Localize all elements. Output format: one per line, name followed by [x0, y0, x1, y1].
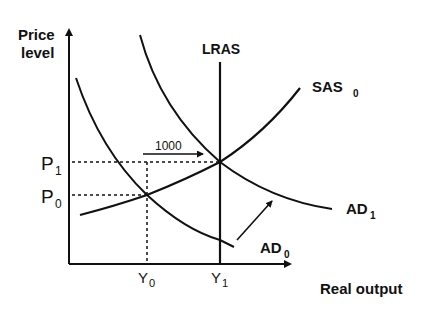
- guide-lines: [72, 162, 219, 264]
- p1-label: P 1: [41, 153, 62, 178]
- svg-text:1: 1: [55, 164, 62, 178]
- y-axis-label-line2: level: [21, 44, 54, 61]
- ad1-label: AD 1: [346, 200, 376, 221]
- svg-text:1: 1: [222, 277, 228, 289]
- ad-as-diagram: Price level LRAS SAS 0 AD 1 AD 0 P 1 P 0…: [0, 0, 425, 310]
- svg-text:AD: AD: [260, 239, 282, 256]
- sas0-curve: [80, 88, 300, 215]
- ad1-curve: [140, 35, 332, 209]
- svg-text:0: 0: [149, 277, 155, 289]
- ad0-label: AD 0: [260, 239, 290, 260]
- svg-text:0: 0: [353, 88, 359, 99]
- svg-text:0: 0: [55, 197, 62, 211]
- svg-text:0: 0: [284, 249, 290, 260]
- y0-label: Y 0: [138, 269, 155, 289]
- p0-label: P 0: [41, 186, 62, 211]
- annotation-1000: 1000: [155, 139, 182, 153]
- svg-text:Y: Y: [138, 269, 148, 286]
- svg-text:P: P: [41, 186, 54, 207]
- sas0-label: SAS 0: [312, 78, 359, 99]
- svg-text:SAS: SAS: [312, 78, 343, 95]
- y-axis-label-line1: Price: [18, 26, 55, 43]
- y1-label: Y 1: [211, 269, 228, 289]
- x-axis-label: Real output: [320, 280, 403, 297]
- ad-shift-arrow: [237, 201, 272, 240]
- svg-text:1: 1: [370, 210, 376, 221]
- svg-text:Y: Y: [211, 269, 221, 286]
- svg-text:AD: AD: [346, 200, 368, 217]
- lras-label: LRAS: [202, 41, 240, 57]
- svg-text:P: P: [41, 153, 54, 174]
